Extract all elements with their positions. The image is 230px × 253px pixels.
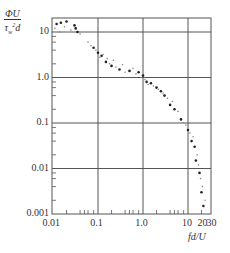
data-points [54,20,206,207]
y-tick-label: 0.1 [37,116,50,127]
y-axis-label-numerator: ΦU [4,8,21,20]
x-tick-label: 30 [206,217,216,228]
x-axis-label: fd/U [188,231,206,242]
grid-lines [52,18,211,214]
x-tick-label: 10 [182,217,192,228]
axis-ticks [52,36,202,214]
x-tick-label: 1.0 [135,217,148,228]
y-axis-label-denominator: τw2d [4,20,21,38]
y-tick-label: 0.01 [32,162,50,173]
y-tick-label: 0.001 [27,207,50,218]
x-tick-label: 0.01 [43,217,61,228]
x-tick-label: 0.1 [90,217,103,228]
y-tick-label: 1.0 [37,71,50,82]
plot-frame [52,18,211,214]
y-axis-label: ΦU τw2d [4,8,21,38]
y-tick-label: 10 [39,25,49,36]
